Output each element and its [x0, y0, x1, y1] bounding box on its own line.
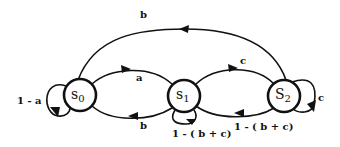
arrow-head-icon: [179, 25, 189, 33]
edge-label-s2-s1: 1 - ( b + c): [234, 121, 293, 132]
edge-label-s2-s2: c: [318, 92, 324, 103]
arrow-head-icon: [234, 109, 244, 117]
edge-label-s1-s1: 1 - ( b + c): [172, 128, 231, 139]
arrow-head-icon: [121, 65, 131, 73]
self-loop-s1: 1 - ( b + c): [172, 110, 231, 139]
edge-label-s0-s0: 1 - a: [17, 95, 42, 106]
edge-label-s1-s2: c: [240, 55, 246, 66]
self-loop-s0: 1 - a: [17, 85, 70, 117]
state-diagram: b a b c 1 - ( b + c) 1 - a 1 - ( b + c): [0, 0, 340, 147]
edge-s1-to-s0: b: [92, 106, 172, 131]
edge-label-s1-s0: b: [140, 120, 147, 131]
edge-label-s0-s1: a: [136, 72, 143, 83]
edge-label-s2-s0: b: [140, 9, 147, 20]
state-s1: s1: [168, 80, 200, 112]
edge-s0-to-s1: a: [92, 65, 172, 84]
edge-s1-to-s2: c: [196, 55, 274, 84]
state-s0: s0: [64, 79, 96, 111]
arrow-head-icon: [228, 64, 238, 72]
edge-s2-to-s0: b: [78, 9, 286, 80]
state-s2: S2: [268, 80, 300, 112]
